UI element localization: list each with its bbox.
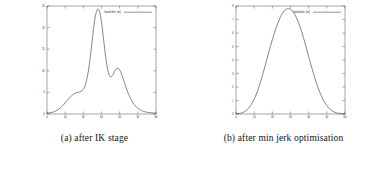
chart-b-axes	[236, 6, 345, 114]
y-tick-label: 0	[232, 112, 234, 116]
y-tick-label: 7	[232, 18, 234, 22]
chart-a-curve	[47, 9, 156, 113]
x-tick-label: 20	[270, 115, 273, 119]
y-tick-label: 25	[41, 4, 44, 8]
y-tick-label: 4	[232, 58, 234, 62]
x-tick-label: 50	[136, 115, 139, 119]
chart-b-axis-lines	[236, 6, 345, 114]
x-tick-label: 0	[46, 115, 48, 119]
chart-b-legend-label: hand dist. (m)	[293, 10, 310, 14]
figure-container: 0510152025 0102030405060 hand dist. (m) …	[0, 0, 379, 169]
x-tick-label: 30	[289, 115, 292, 119]
x-tick-label: 10	[63, 115, 66, 119]
chart-a-legend-label: hand dist. (m)	[104, 10, 121, 14]
x-tick-label: 30	[100, 115, 103, 119]
chart-b-y-ticks: 012345678	[232, 4, 345, 116]
y-tick-label: 10	[41, 69, 44, 73]
chart-b-curve	[236, 9, 345, 114]
x-tick-label: 60	[154, 115, 157, 119]
y-tick-label: 5	[232, 45, 234, 49]
y-tick-label: 3	[232, 72, 234, 76]
caption-a: (a) after IK stage	[0, 133, 189, 143]
caption-b: (b) after min jerk optimisation	[189, 133, 378, 143]
chart-a-y-ticks: 0510152025	[41, 4, 155, 116]
y-tick-label: 15	[41, 47, 44, 51]
x-tick-label: 40	[118, 115, 121, 119]
x-tick-label: 40	[307, 115, 310, 119]
chart-b-x-ticks: 0102030405060	[235, 6, 347, 119]
y-tick-label: 20	[41, 26, 44, 30]
x-tick-label: 50	[325, 115, 328, 119]
chart-b-svg: 012345678 0102030405060 hand dist. (m)	[214, 2, 354, 128]
y-tick-label: 5	[43, 90, 45, 94]
y-tick-label: 1	[232, 99, 234, 103]
panel-a: 0510152025 0102030405060 hand dist. (m) …	[0, 0, 189, 169]
panel-b: 012345678 0102030405060 hand dist. (m) (…	[189, 0, 378, 169]
y-tick-label: 2	[232, 85, 234, 89]
y-tick-label: 0	[43, 112, 45, 116]
x-tick-label: 20	[81, 115, 84, 119]
x-tick-label: 0	[235, 115, 237, 119]
chart-b-legend: hand dist. (m)	[293, 10, 340, 14]
chart-b-plot-area: 012345678 0102030405060 hand dist. (m)	[214, 2, 354, 128]
x-tick-label: 10	[252, 115, 255, 119]
x-tick-label: 60	[343, 115, 346, 119]
chart-a-x-ticks: 0102030405060	[46, 6, 158, 119]
chart-a-series-group	[47, 9, 156, 113]
y-tick-label: 6	[232, 31, 234, 35]
chart-b-frame-top-right	[236, 6, 345, 114]
y-tick-label: 8	[232, 4, 234, 8]
chart-a-plot-area: 0510152025 0102030405060 hand dist. (m)	[25, 2, 165, 128]
chart-b-series-group	[236, 9, 345, 114]
chart-a-svg: 0510152025 0102030405060 hand dist. (m)	[25, 2, 165, 128]
chart-a-legend: hand dist. (m)	[104, 10, 151, 14]
